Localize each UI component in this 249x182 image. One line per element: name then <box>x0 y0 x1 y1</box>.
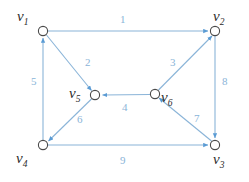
vertex-node-v5 <box>90 90 99 99</box>
vertex-label-v5-letter: v <box>69 85 76 101</box>
directed-graph-figure: v1 v2 v3 v4 v5 v6 1 2 3 4 5 6 7 8 9 <box>0 0 249 182</box>
edge-label-9: 9 <box>120 155 126 166</box>
vertex-node-v4 <box>38 140 47 149</box>
vertex-label-v4-index: 4 <box>23 159 28 169</box>
edge-label-6: 6 <box>77 114 83 125</box>
vertex-label-v6: v6 <box>161 90 172 109</box>
vertex-label-v5-index: 5 <box>76 94 81 104</box>
vertex-label-v3: v3 <box>213 152 224 171</box>
edge-label-1: 1 <box>120 14 126 25</box>
vertex-node-v1 <box>38 26 47 35</box>
vertex-label-v1-index: 1 <box>24 17 29 27</box>
edge-label-7: 7 <box>194 113 200 124</box>
edge-4-v6-v5 <box>103 95 151 96</box>
vertex-label-v3-index: 3 <box>220 160 225 170</box>
edge-label-5: 5 <box>31 76 37 87</box>
vertex-label-v4-letter: v <box>16 150 23 166</box>
edge-label-8: 8 <box>222 76 228 87</box>
edge-3-v6-v2 <box>159 36 213 90</box>
edge-label-3: 3 <box>170 57 176 68</box>
vertex-label-v1-letter: v <box>17 8 24 24</box>
vertex-label-v2-index: 2 <box>220 17 225 27</box>
vertex-label-v6-index: 6 <box>168 98 173 108</box>
vertex-label-v4: v4 <box>16 151 27 170</box>
vertex-node-v2 <box>210 26 219 35</box>
vertex-label-v1: v1 <box>17 9 28 28</box>
vertex-label-v3-letter: v <box>213 151 220 167</box>
edge-label-4: 4 <box>122 102 128 113</box>
vertex-label-v2-letter: v <box>213 8 220 24</box>
vertex-node-v3 <box>210 140 219 149</box>
vertex-label-v6-letter: v <box>161 89 168 105</box>
edge-label-2: 2 <box>85 57 91 68</box>
vertex-label-v2: v2 <box>213 9 224 28</box>
vertex-node-v6 <box>150 89 159 98</box>
vertices-layer <box>38 26 219 149</box>
vertex-label-v5: v5 <box>69 86 80 105</box>
edge-6-v5-v4 <box>49 99 92 141</box>
